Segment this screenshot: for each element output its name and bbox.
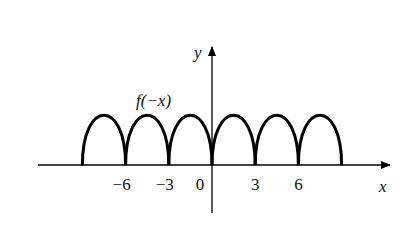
arch-3: [212, 115, 255, 165]
chart: y x f(−x) −6−3036: [0, 0, 415, 234]
y-axis-label: y: [192, 43, 202, 62]
curve-label: f(−x): [136, 91, 171, 110]
x-tick-label: −6: [113, 175, 131, 194]
x-axis-label: x: [378, 177, 387, 196]
arch-4: [255, 115, 298, 165]
x-tick-labels: −6−3036: [113, 175, 303, 194]
x-tick-label: −3: [156, 175, 174, 194]
arch-5: [298, 115, 341, 165]
x-tick-label: 6: [294, 175, 303, 194]
arch-0: [82, 115, 125, 165]
arch-2: [169, 115, 212, 165]
x-tick-label: 0: [196, 175, 205, 194]
arch-1: [126, 115, 169, 165]
x-tick-label: 3: [251, 175, 260, 194]
